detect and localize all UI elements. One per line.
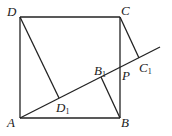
label-b: B — [121, 115, 129, 130]
segment-dd1 — [20, 17, 59, 98]
label-d: D — [6, 4, 17, 19]
label-d1: D1 — [55, 100, 69, 116]
label-c: C — [121, 3, 130, 18]
geometry-diagram: D C A B D1 B1 P C1 — [0, 0, 172, 136]
label-c1: C1 — [139, 60, 152, 76]
label-p: P — [121, 68, 130, 83]
segment-bb1 — [101, 77, 120, 118]
label-a: A — [6, 115, 15, 130]
label-b1: B1 — [94, 63, 106, 79]
square-abcd — [20, 17, 120, 118]
segment-cc1 — [120, 17, 139, 58]
